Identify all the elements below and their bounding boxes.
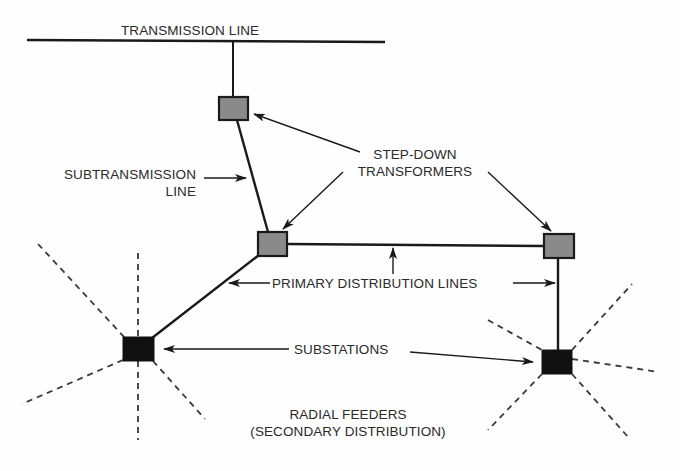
arrow-step-down-middle <box>283 172 343 229</box>
label-step-down-transformers: STEP-DOWN TRANSFORMERS <box>345 146 485 180</box>
arrow-step-down-right <box>488 172 551 231</box>
label-subtransmission-line: SUBTRANSMISSION LINE <box>40 166 196 200</box>
transformer-middle <box>258 232 287 256</box>
transmission-line <box>27 40 385 42</box>
substation-right <box>542 350 572 374</box>
primary-line-left <box>152 255 259 338</box>
label-radial-feeders-1: RADIAL FEEDERS <box>228 406 468 423</box>
label-transmission-line: TRANSMISSION LINE <box>121 22 259 39</box>
label-primary-distribution-lines: PRIMARY DISTRIBUTION LINES <box>272 275 477 292</box>
label-radial-feeders-2: (SECONDARY DISTRIBUTION) <box>228 423 468 440</box>
diagram-graphics <box>0 0 680 471</box>
primary-line-horizontal <box>287 244 544 246</box>
label-step-down-1: STEP-DOWN <box>345 146 485 163</box>
label-substations: SUBSTATIONS <box>294 341 388 358</box>
label-step-down-2: TRANSFORMERS <box>345 163 485 180</box>
transformer-right <box>544 234 574 258</box>
substation-left <box>123 337 154 361</box>
subtransmission-line <box>237 120 268 232</box>
label-subtransmission-line-2: LINE <box>40 183 196 200</box>
label-subtransmission-line-1: SUBTRANSMISSION <box>40 166 196 183</box>
radial-feeders-left <box>22 244 205 440</box>
distribution-network-diagram: TRANSMISSION LINE SUBTRANSMISSION LINE S… <box>0 0 680 471</box>
transformer-top <box>219 97 248 120</box>
arrow-substation-right <box>410 352 533 362</box>
label-radial-feeders: RADIAL FEEDERS (SECONDARY DISTRIBUTION) <box>228 406 468 440</box>
